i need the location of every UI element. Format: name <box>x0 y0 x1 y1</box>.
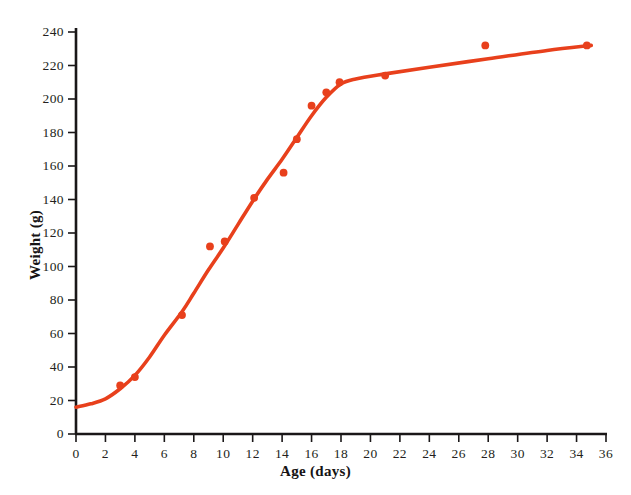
data-point-marker <box>322 88 330 96</box>
x-axis-title: Age (days) <box>0 464 631 479</box>
y-axis-tick-label: 220 <box>14 59 64 73</box>
y-axis-tick-label: 0 <box>14 427 64 441</box>
growth-chart-figure: 020406080100120140160180200220240 024681… <box>0 0 631 495</box>
y-axis-tick-label: 200 <box>14 92 64 106</box>
fitted-growth-curve <box>76 45 591 407</box>
fitted-curve-path <box>76 45 591 407</box>
data-point-marker <box>206 243 214 251</box>
data-point-marker <box>308 102 316 110</box>
y-axis-tick-label: 180 <box>14 126 64 140</box>
y-axis-tick-label: 20 <box>14 394 64 408</box>
data-point-marker <box>381 72 389 80</box>
data-point-marker <box>178 311 186 319</box>
data-point-marker <box>336 78 344 86</box>
data-point-marker <box>221 237 229 245</box>
x-axis-tick-label: 36 <box>586 447 626 461</box>
y-axis-tick-label: 160 <box>14 159 64 173</box>
data-point-marker <box>131 373 139 381</box>
y-axis-tick-label: 60 <box>14 327 64 341</box>
y-axis-title: Weight (g) <box>28 210 43 280</box>
data-point-markers <box>116 42 590 390</box>
data-point-marker <box>481 42 489 50</box>
plot-area <box>0 0 631 495</box>
y-axis-tick-label: 40 <box>14 360 64 374</box>
axis-lines <box>75 28 607 434</box>
data-point-marker <box>250 194 258 202</box>
data-point-marker <box>293 135 301 143</box>
data-point-marker <box>583 42 591 50</box>
data-point-marker <box>280 169 288 177</box>
y-axis-tick-label: 140 <box>14 193 64 207</box>
data-point-marker <box>116 382 124 390</box>
y-axis-tick-label: 240 <box>14 25 64 39</box>
y-axis-tick-label: 80 <box>14 293 64 307</box>
